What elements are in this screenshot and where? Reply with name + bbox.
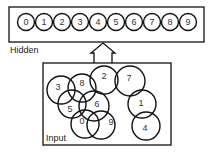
arrow-icon [91,43,115,63]
hidden-unit: 3 [72,14,89,31]
hidden-unit: 2 [54,14,71,31]
hidden-unit-label: 2 [59,17,64,27]
hidden-unit: 0 [18,14,35,31]
hidden-unit-label: 7 [149,17,154,27]
hidden-unit: 1 [36,14,53,31]
hidden-layer-label: Hidden [10,45,39,55]
hidden-unit-label: 6 [131,17,136,27]
receptive-field-label: 0 [79,116,84,126]
receptive-field-label: 6 [94,99,99,109]
hidden-unit-label: 3 [77,17,82,27]
hidden-unit: 9 [180,14,197,31]
hidden-unit: 4 [90,14,107,31]
hidden-unit-label: 4 [95,17,100,27]
hidden-unit: 8 [162,14,179,31]
network-diagram: 0123456789 Hidden 3852609714 Input [0,0,212,153]
hidden-unit: 6 [126,14,143,31]
hidden-unit: 7 [144,14,161,31]
receptive-field-label: 7 [126,73,131,83]
hidden-unit-label: 1 [41,17,46,27]
receptive-field-label: 9 [108,117,113,127]
hidden-unit-label: 0 [23,17,28,27]
hidden-unit: 5 [108,14,125,31]
hidden-unit-label: 5 [113,17,118,27]
receptive-field-label: 5 [67,104,72,114]
receptive-field-label: 1 [138,98,143,108]
receptive-field-label: 2 [101,71,106,81]
hidden-units: 0123456789 [18,14,197,31]
receptive-field-label: 8 [79,78,84,88]
input-layer-label: Input [46,133,67,143]
hidden-unit-label: 8 [167,17,172,27]
hidden-unit-label: 9 [185,17,190,27]
receptive-field-label: 3 [55,82,60,92]
receptive-field-label: 4 [142,123,147,133]
input-layer: 3852609714 Input [43,63,171,145]
